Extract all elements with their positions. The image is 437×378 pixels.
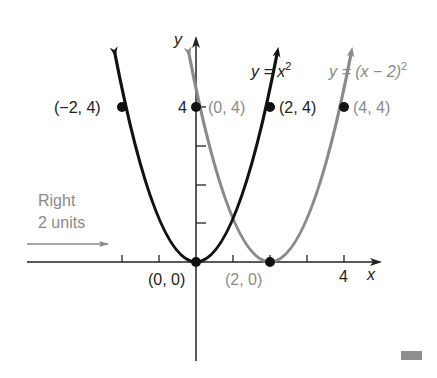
end-marker: [401, 351, 422, 360]
label-point-4-4: (4, 4): [353, 99, 390, 116]
x-ticks: [122, 255, 344, 262]
axes: y x 4 4: [27, 31, 380, 361]
equation-original-main: y = x: [250, 63, 286, 80]
y-tick-label-4: 4: [178, 99, 187, 116]
equation-original: y = x2: [250, 60, 291, 80]
label-point-2-0: (2, 0): [225, 271, 262, 288]
point-0-0: [191, 257, 201, 267]
label-point-0-0: (0, 0): [148, 271, 185, 288]
equation-shifted-exp: 2: [401, 60, 407, 72]
equation-shifted: y = (x − 2)2: [328, 60, 407, 80]
shift-annotation-line1: Right: [38, 192, 76, 209]
point-neg2-4: [117, 102, 127, 112]
equation-original-exp: 2: [285, 60, 291, 72]
point-0-4: [191, 102, 201, 112]
points: [117, 102, 349, 267]
point-4-4: [339, 102, 349, 112]
x-axis-label: x: [366, 266, 376, 283]
shift-annotation: Right 2 units: [27, 192, 108, 244]
point-2-0: [265, 257, 275, 267]
y-axis-label: y: [173, 31, 183, 48]
parabola-shift-chart: y x 4 4 (−2, 4) (0, 4) (2, 4) (4, 4) (0,…: [0, 0, 437, 378]
equation-shifted-main: y = (x − 2): [328, 63, 401, 80]
shift-annotation-line2: 2 units: [38, 214, 85, 231]
label-point-0-4: (0, 4): [208, 99, 245, 116]
point-2-4: [265, 102, 275, 112]
label-point-2-4: (2, 4): [279, 99, 316, 116]
label-point-neg2-4: (−2, 4): [54, 99, 101, 116]
x-tick-label-4: 4: [339, 268, 348, 285]
